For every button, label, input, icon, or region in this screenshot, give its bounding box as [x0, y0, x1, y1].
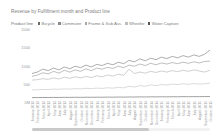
- x-axis-tick-label: July 2014: [129, 101, 132, 116]
- legend-title: Product line: [11, 21, 33, 26]
- horizontal-scrollbar-thumb[interactable]: [32, 128, 149, 131]
- x-axis: January 2013February 2013March 2013April…: [32, 101, 210, 125]
- legend-item-label: Water Capture: [152, 21, 179, 26]
- x-axis-tick-label: September 2013: [75, 101, 78, 126]
- legend-item[interactable]: Frame & Sub Ass.: [85, 21, 123, 26]
- x-axis-tick-label: April 2015: [178, 101, 181, 116]
- x-axis-tick-label: September 2014: [140, 101, 143, 126]
- x-axis-tick-label: August 2014: [134, 101, 137, 120]
- x-axis-tick-label: January 2013: [32, 101, 35, 122]
- y-axis: 0M500100015002000: [10, 29, 32, 102]
- legend-swatch-icon: [38, 22, 41, 25]
- x-axis-tick-label: January 2014: [97, 101, 100, 122]
- series-line: [32, 69, 210, 80]
- legend-swatch-icon: [148, 22, 151, 25]
- x-axis-tick-label: March 2014: [108, 101, 111, 119]
- x-axis-tick-label: December 2013: [91, 101, 94, 125]
- x-axis-tick-label: July 2015: [194, 101, 197, 116]
- x-axis-tick-label: May 2014: [118, 101, 121, 116]
- x-axis-tick-label: December 2014: [156, 101, 159, 125]
- x-axis-tick-label: August 2013: [70, 101, 73, 120]
- y-axis-tick-label: 0M: [25, 100, 30, 105]
- legend-item[interactable]: Bicycle: [38, 21, 55, 26]
- legend-item[interactable]: Water Capture: [148, 21, 179, 26]
- y-axis-tick-label: 1000: [21, 63, 30, 68]
- x-axis-tick-label: July 2013: [64, 101, 67, 116]
- series-line: [32, 61, 210, 76]
- x-axis-tick-label: February 2013: [37, 101, 40, 123]
- y-axis-tick-label: 500: [24, 81, 31, 86]
- x-axis-tick-label: June 2014: [124, 101, 127, 117]
- lines-svg: [32, 29, 210, 102]
- chart-title: Revenue by Fulfillment month and Product…: [11, 9, 110, 15]
- series-line: [32, 97, 210, 98]
- legend-swatch-icon: [58, 22, 61, 25]
- line-chart-visual: Revenue by Fulfillment month and Product…: [0, 0, 217, 138]
- x-axis-tick-label: September 2015: [205, 101, 208, 126]
- legend-item-label: Commuter: [62, 21, 82, 26]
- x-axis-tick-label: June 2015: [188, 101, 191, 117]
- x-axis-tick-label: January 2015: [161, 101, 164, 122]
- x-axis-tick-label: March 2013: [43, 101, 46, 119]
- legend-item-label: Bicycle: [42, 21, 55, 26]
- legend-item[interactable]: Wheeler: [125, 21, 144, 26]
- x-axis-tick-label: October 2013: [81, 101, 84, 122]
- y-axis-tick-label: 2000: [21, 27, 30, 32]
- x-axis-tick-label: August 2015: [199, 101, 202, 120]
- legend: Product line BicycleCommuterFrame & Sub …: [11, 20, 179, 27]
- x-axis-tick-label: April 2013: [48, 101, 51, 116]
- series-line: [32, 83, 210, 90]
- x-axis-tick-label: February 2014: [102, 101, 105, 123]
- x-axis-tick-label: April 2014: [113, 101, 116, 116]
- legend-item[interactable]: Commuter: [58, 21, 81, 26]
- x-axis-tick-label: November 2014: [151, 101, 154, 125]
- legend-swatch-icon: [125, 22, 128, 25]
- x-axis-tick-label: March 2015: [172, 101, 175, 119]
- legend-item-label: Wheeler: [129, 21, 145, 26]
- series-lines: [32, 29, 210, 102]
- x-axis-tick-label: May 2013: [54, 101, 57, 116]
- x-axis-tick-label: February 2015: [167, 101, 170, 123]
- y-axis-tick-label: 1500: [21, 45, 30, 50]
- horizontal-scrollbar-track[interactable]: [32, 128, 210, 131]
- x-axis-tick-label: October 2015: [210, 101, 213, 122]
- legend-swatch-icon: [85, 22, 88, 25]
- plot-area: 0M500100015002000: [10, 29, 210, 102]
- x-axis-tick-label: May 2015: [183, 101, 186, 116]
- legend-item-label: Frame & Sub Ass.: [88, 21, 122, 26]
- x-axis-tick-label: October 2014: [145, 101, 148, 122]
- x-axis-tick-label: November 2013: [86, 101, 89, 125]
- x-axis-tick-label: June 2013: [59, 101, 62, 117]
